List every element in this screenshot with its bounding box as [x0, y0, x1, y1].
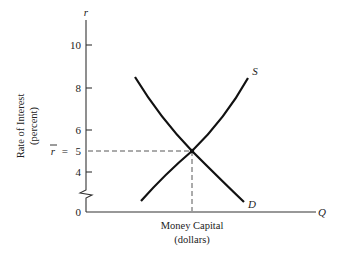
tick-label-8: 8 — [76, 82, 82, 94]
supply-curve-label: S — [252, 65, 258, 77]
q-axis-symbol: Q — [318, 206, 326, 218]
tick-label-4: 4 — [76, 166, 82, 178]
tick-label-6: 6 — [76, 124, 82, 136]
tick-label-10: 10 — [70, 39, 82, 51]
y-axis-title: Rate of Interest (percent) — [15, 94, 40, 159]
y-axis-title-line1: Rate of Interest — [15, 94, 26, 159]
tick-label-5-rbar: r — [51, 145, 56, 157]
supply-demand-chart: 10 8 6 4 0 5 = r r Q S D Money Capital (… — [0, 0, 338, 255]
equilibrium-point — [190, 149, 194, 153]
supply-curve — [141, 78, 248, 201]
demand-curve — [135, 77, 244, 202]
y-ticks — [86, 45, 92, 172]
x-axis-title-line1: Money Capital — [161, 220, 224, 231]
axis-break-icon — [80, 188, 92, 212]
tick-label-0: 0 — [76, 206, 82, 218]
tick-label-5: 5 — [76, 145, 82, 157]
tick-label-5-equals: = — [62, 145, 68, 157]
equilibrium-rate-label: 5 = r — [50, 145, 82, 157]
y-axis — [80, 20, 92, 212]
x-axis-title-line2: (dollars) — [174, 234, 210, 246]
y-axis-title-line2: (percent) — [28, 107, 40, 145]
r-axis-symbol: r — [84, 6, 89, 18]
demand-curve-label: D — [247, 198, 256, 210]
